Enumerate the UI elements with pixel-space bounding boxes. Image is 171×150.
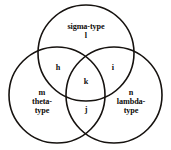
venn-diagram-figure: sigma-type l theta- type m lambda- type … bbox=[0, 0, 171, 150]
circle-lambda-type bbox=[66, 47, 162, 143]
circle-theta-type bbox=[9, 47, 105, 143]
venn-circles-svg bbox=[0, 0, 171, 150]
circle-sigma-type bbox=[38, 5, 134, 101]
